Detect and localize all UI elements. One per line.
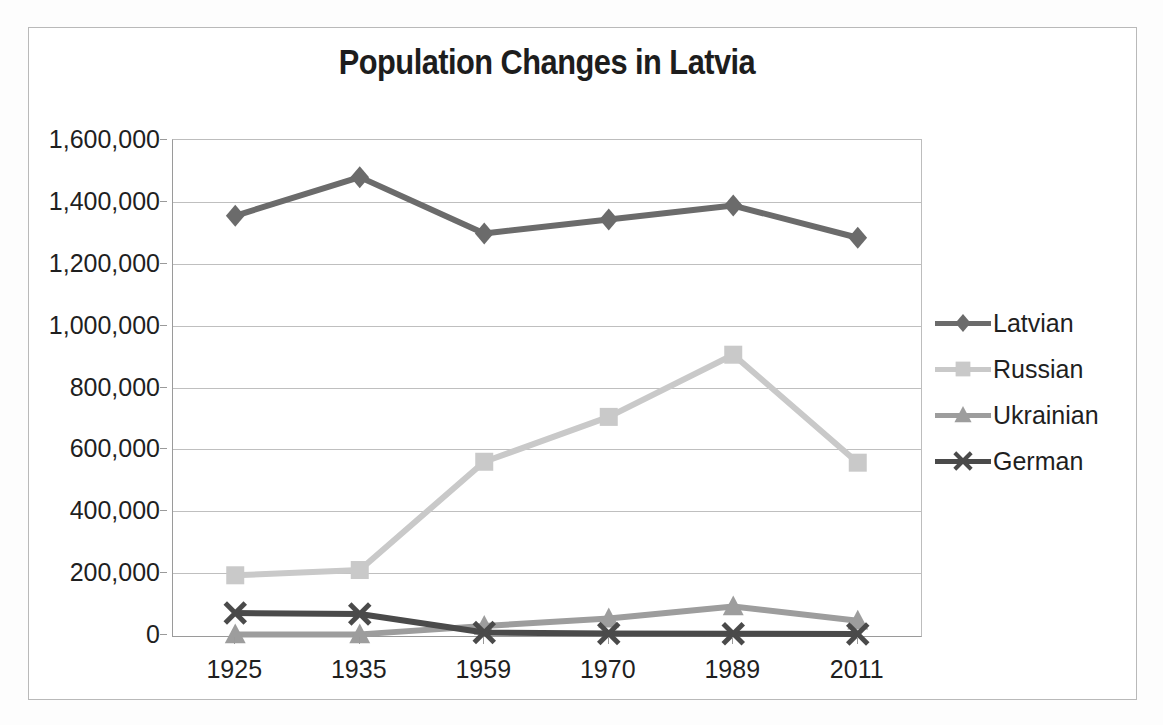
y-axis-tick-label: 1,600,000 (10, 125, 160, 154)
legend-item-russian[interactable]: Russian (935, 346, 1155, 392)
x-axis-tick-mark (483, 637, 484, 644)
y-axis-tick-label: 0 (10, 620, 160, 649)
legend-swatch (935, 312, 991, 334)
x-axis-tick-label: 2011 (797, 655, 917, 684)
legend-label: Ukrainian (991, 401, 1099, 430)
legend-item-german[interactable]: German (935, 438, 1155, 484)
legend-label: Russian (991, 355, 1083, 384)
data-point-marker (599, 209, 618, 231)
data-point-marker (849, 454, 867, 472)
legend-label: German (991, 447, 1083, 476)
legend-label: Latvian (991, 309, 1074, 338)
x-axis-tick-mark (857, 637, 858, 644)
legend-swatch (935, 450, 991, 472)
data-point-marker (600, 408, 618, 426)
x-axis-tick-label: 1989 (672, 655, 792, 684)
legend-item-ukrainian[interactable]: Ukrainian (935, 392, 1155, 438)
x-axis-labels: 192519351959197019892011 (172, 637, 922, 697)
legend-swatch (935, 404, 991, 426)
y-axis-tick-mark (160, 201, 167, 202)
series-line (235, 355, 858, 576)
x-axis-tick-label: 1959 (423, 655, 543, 684)
y-axis-tick-mark (160, 448, 167, 449)
series-latvian (226, 166, 867, 249)
y-axis-tick-mark (160, 325, 167, 326)
plot-area (172, 139, 922, 637)
x-axis-tick-label: 1935 (299, 655, 419, 684)
y-axis-tick-mark (160, 572, 167, 573)
x-axis-tick-label: 1925 (174, 655, 294, 684)
legend-marker-triangle-icon (935, 402, 991, 428)
data-point-marker (226, 205, 245, 227)
chart-container: Population Changes in Latvia 1,600,0001,… (0, 0, 1163, 725)
y-axis-tick-mark (160, 263, 167, 264)
data-point-marker (848, 227, 867, 249)
y-axis-tick-label: 800,000 (10, 372, 160, 401)
y-axis-tick-mark (160, 387, 167, 388)
y-axis-tick-label: 1,400,000 (10, 186, 160, 215)
y-axis-tick-mark (160, 634, 167, 635)
x-axis-tick-label: 1970 (548, 655, 668, 684)
data-point-marker (351, 561, 369, 579)
series-russian (226, 346, 867, 585)
y-axis-tick-mark (160, 510, 167, 511)
y-axis-tick-label: 200,000 (10, 558, 160, 587)
x-axis-tick-mark (608, 637, 609, 644)
y-axis-labels: 1,600,0001,400,0001,200,0001,000,000800,… (8, 139, 160, 637)
y-axis-tick-label: 1,000,000 (10, 310, 160, 339)
series-line (235, 177, 858, 238)
chart-legend: LatvianRussianUkrainianGerman (935, 300, 1155, 484)
legend-marker-diamond-icon (935, 310, 991, 336)
x-axis-tick-mark (359, 637, 360, 644)
x-axis-tick-mark (234, 637, 235, 644)
data-point-marker (475, 453, 493, 471)
y-axis-tick-mark (160, 139, 167, 140)
legend-marker-cross-icon (935, 448, 991, 474)
chart-title: Population Changes in Latvia (217, 42, 877, 82)
data-point-marker (724, 346, 742, 364)
y-axis-tick-label: 1,200,000 (10, 248, 160, 277)
series-layer (173, 140, 920, 635)
legend-swatch (935, 358, 991, 380)
data-point-marker (350, 166, 369, 188)
data-point-marker (475, 222, 494, 244)
y-axis-tick-label: 600,000 (10, 434, 160, 463)
x-axis-tick-mark (732, 637, 733, 644)
data-point-marker (724, 195, 743, 217)
legend-item-latvian[interactable]: Latvian (935, 300, 1155, 346)
y-axis-tick-label: 400,000 (10, 496, 160, 525)
data-point-marker (226, 566, 244, 584)
legend-marker-square-icon (935, 356, 991, 382)
